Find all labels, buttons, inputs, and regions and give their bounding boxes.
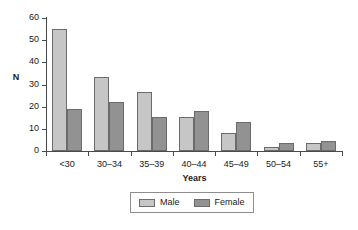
x-axis-line [46, 151, 343, 152]
bar-female [236, 122, 251, 151]
x-axis-tick-mark [342, 152, 343, 156]
y-axis-tick-label: 0 [34, 145, 39, 156]
bar-group [88, 18, 130, 151]
bar-group [257, 18, 299, 151]
bar-male [94, 77, 109, 151]
x-axis-tick-label: 50–54 [257, 158, 299, 170]
y-axis-tick-label: 60 [29, 12, 39, 23]
y-axis-tick-label: 50 [29, 34, 39, 45]
bar-male [221, 133, 236, 151]
bar-group [131, 18, 173, 151]
legend-entry-female: Female [194, 197, 245, 208]
x-axis-tick-mark [88, 152, 89, 156]
x-axis-tick-label: 35–39 [131, 158, 173, 170]
bar-male [264, 147, 279, 151]
bar-female [109, 102, 124, 151]
plot-area [46, 18, 342, 151]
bar-male [52, 29, 67, 151]
bar-chart-figure: N 0102030405060 <3030–3435–3940–4445–495… [0, 0, 358, 230]
legend-swatch-female-icon [194, 199, 210, 207]
bar-female [321, 141, 336, 151]
x-axis-tick-mark [215, 152, 216, 156]
legend-entry-male: Male [139, 197, 180, 208]
y-axis-tick-label: 20 [29, 101, 39, 112]
x-axis-tick-mark [173, 152, 174, 156]
x-axis-tick-label: 40–44 [173, 158, 215, 170]
bar-group [215, 18, 257, 151]
legend-label-male: Male [160, 197, 180, 208]
bar-group [300, 18, 342, 151]
bar-male [179, 117, 194, 151]
bar-male [306, 143, 321, 151]
x-axis-tick-mark [300, 152, 301, 156]
legend-swatch-male-icon [139, 199, 155, 207]
bar-female [194, 111, 209, 151]
x-axis-tick-mark [46, 152, 47, 156]
bar-group [46, 18, 88, 151]
x-axis-tick-label: 45–49 [215, 158, 257, 170]
bar-male [137, 92, 152, 151]
bar-female [67, 109, 82, 151]
x-axis-tick-label: <30 [46, 158, 88, 170]
y-axis-tick-label: 30 [29, 79, 39, 90]
legend-label-female: Female [215, 197, 245, 208]
x-axis-tick-mark [257, 152, 258, 156]
x-axis-tick-label: 30–34 [88, 158, 130, 170]
x-axis-title: Years [46, 172, 343, 184]
legend: Male Female [130, 192, 254, 213]
bar-female [152, 117, 167, 151]
bar-female [279, 143, 294, 151]
x-axis-tick-label: 55+ [300, 158, 342, 170]
y-axis-tick-group: 0102030405060 [0, 18, 46, 151]
bar-group [173, 18, 215, 151]
y-axis-tick-label: 40 [29, 56, 39, 67]
x-axis-tick-mark [131, 152, 132, 156]
y-axis-tick-label: 10 [29, 123, 39, 134]
